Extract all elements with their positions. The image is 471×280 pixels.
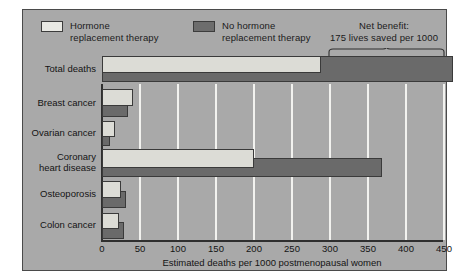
chart-row-total-deaths: Total deaths: [23, 56, 448, 82]
bar-group-ovarian-cancer: [102, 121, 444, 147]
x-tick-label-150: 150: [201, 243, 231, 254]
category-label-colon-cancer: Colon cancer: [40, 219, 96, 230]
bar-group-coronary-heart-disease: [102, 149, 444, 177]
legend-label-no-hormone-replacement-therapy: No hormone replacement therapy: [222, 20, 311, 43]
x-axis-line: [101, 240, 443, 242]
legend-label-nohrt-line1: No hormone: [222, 20, 311, 32]
net-benefit-line1: Net benefit:: [323, 20, 445, 32]
chart-row-colon-cancer: Colon cancer: [23, 213, 448, 240]
legend-label-hrt-line1: Hormone: [70, 20, 159, 32]
bar-group-breast-cancer: [102, 89, 444, 117]
x-tick-label-350: 350: [353, 243, 383, 254]
chart-row-breast-cancer: Breast cancer: [23, 89, 448, 117]
legend-label-hormone-replacement-therapy: Hormone replacement therapy: [70, 20, 159, 43]
x-tick-label-0: 0: [87, 243, 117, 254]
x-tick-label-100: 100: [163, 243, 193, 254]
category-label-chd-line2: heart disease: [39, 162, 96, 173]
bar-hrt-total-deaths: [102, 56, 321, 73]
category-label-breast-cancer: Breast cancer: [37, 97, 96, 108]
bar-hrt-osteoporosis: [102, 181, 121, 198]
category-label-coronary-heart-disease: Coronary heart disease: [39, 151, 96, 173]
x-tick-label-400: 400: [391, 243, 421, 254]
x-axis-title: Estimated deaths per 1000 postmenopausal…: [101, 257, 443, 268]
chart-row-ovarian-cancer: Ovarian cancer: [23, 121, 448, 147]
x-tick-label-250: 250: [277, 243, 307, 254]
chart-panel: Hormone replacement therapy No hormone r…: [22, 9, 447, 271]
net-benefit-line2: 175 lives saved per 1000: [323, 32, 445, 44]
category-label-osteoporosis: Osteoporosis: [40, 188, 96, 199]
bar-group-colon-cancer: [102, 213, 444, 240]
category-label-total-deaths: Total deaths: [45, 63, 96, 74]
x-tick-label-50: 50: [125, 243, 155, 254]
chart-plot-area: Total deaths Breast cancer Ovarian cance…: [23, 56, 448, 246]
x-tick-label-200: 200: [239, 243, 269, 254]
chart-row-coronary-heart-disease: Coronary heart disease: [23, 149, 448, 177]
chart-figure: Hormone replacement therapy No hormone r…: [0, 0, 471, 280]
legend-swatch-hormone-replacement-therapy: [41, 21, 63, 32]
net-benefit-annotation: Net benefit: 175 lives saved per 1000: [323, 20, 445, 43]
legend-swatch-no-hormone-replacement-therapy: [193, 21, 215, 32]
x-tick-label-300: 300: [315, 243, 345, 254]
legend-label-nohrt-line2: replacement therapy: [222, 32, 311, 44]
bar-hrt-coronary-heart-disease: [102, 149, 254, 168]
bar-group-osteoporosis: [102, 181, 444, 209]
x-tick-label-450: 450: [429, 243, 459, 254]
legend-label-hrt-line2: replacement therapy: [70, 32, 159, 44]
category-label-chd-line1: Coronary: [39, 151, 96, 162]
bar-hrt-colon-cancer: [102, 213, 119, 229]
bar-hrt-breast-cancer: [102, 89, 133, 106]
bar-hrt-ovarian-cancer: [102, 121, 115, 137]
category-label-ovarian-cancer: Ovarian cancer: [32, 127, 96, 138]
bar-group-total-deaths: [102, 56, 444, 82]
chart-row-osteoporosis: Osteoporosis: [23, 181, 448, 209]
